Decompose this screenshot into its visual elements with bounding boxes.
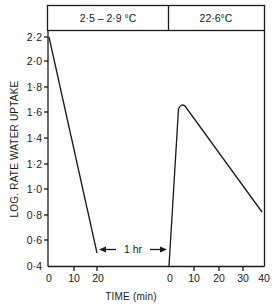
y-tick-label: 1·2 bbox=[27, 158, 42, 170]
x-axis-label: TIME (min) bbox=[105, 291, 156, 302]
x-tick-label: 10 bbox=[68, 272, 80, 284]
y-tick-label: 0·6 bbox=[27, 234, 42, 246]
arrow-right-icon bbox=[160, 247, 167, 253]
x-tick-label: 0 bbox=[167, 272, 173, 284]
y-tick-label: 2·2 bbox=[27, 31, 42, 43]
gap-annotation: 1 hr bbox=[99, 243, 167, 255]
y-tick-label: 1·0 bbox=[27, 183, 42, 195]
x-tick-label: 30 bbox=[237, 272, 249, 284]
x-tick-label: 0 bbox=[46, 272, 52, 284]
y-tick-label: 2·0 bbox=[27, 55, 42, 67]
header-right-label: 22·6°C bbox=[200, 12, 233, 24]
y-axis-label: LOG. RATE WATER UPTAKE bbox=[9, 80, 20, 217]
chart: 2·5 – 2·9 °C 22·6°C 2·2 2·0 1·8 1·6 1·4 … bbox=[0, 0, 275, 307]
y-tick-label: 1·4 bbox=[27, 132, 42, 144]
x-tick-label: 40 bbox=[258, 272, 270, 284]
arrow-left-icon bbox=[99, 247, 106, 253]
gap-label: 1 hr bbox=[124, 243, 143, 255]
plot-frame bbox=[48, 31, 265, 267]
x-tick-label: 20 bbox=[92, 272, 104, 284]
y-tick-label: 1·8 bbox=[27, 81, 42, 93]
y-tick-label: 1·6 bbox=[27, 106, 42, 118]
warm-series-line bbox=[169, 105, 262, 266]
cold-series-line bbox=[49, 37, 97, 253]
y-tick-label: 0·4 bbox=[27, 260, 42, 272]
x-ticks: 0 10 20 0 10 20 30 40 bbox=[46, 267, 270, 285]
y-ticks: 2·2 2·0 1·8 1·6 1·4 1·2 1·0 0·8 0·6 0·4 bbox=[27, 31, 48, 272]
y-tick-label: 0·8 bbox=[27, 209, 42, 221]
x-tick-label: 10 bbox=[188, 272, 200, 284]
header-left-label: 2·5 – 2·9 °C bbox=[80, 12, 137, 24]
x-tick-label: 20 bbox=[213, 272, 225, 284]
temperature-header: 2·5 – 2·9 °C 22·6°C bbox=[48, 6, 265, 31]
